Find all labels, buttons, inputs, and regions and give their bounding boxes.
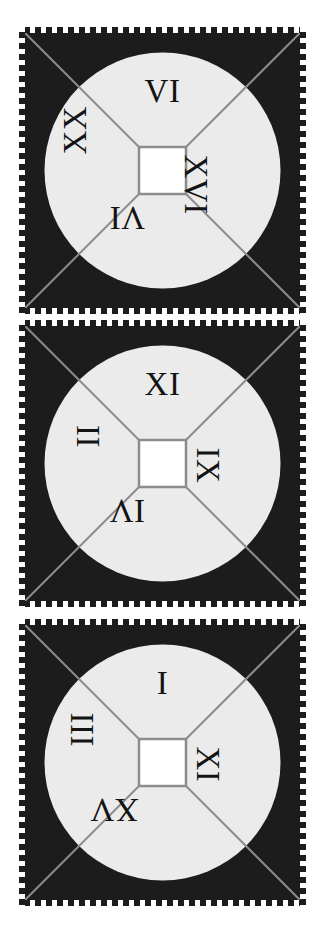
numeral-top: VI	[145, 75, 181, 108]
dial-panel: VI XVI VI XX	[19, 27, 306, 314]
border-dash-left	[19, 619, 25, 906]
border-dash-left	[19, 27, 25, 314]
border-dash-bottom	[19, 308, 306, 314]
dial-hub	[139, 440, 186, 487]
numeral-bottom: VI	[109, 201, 145, 234]
numeral-left: XX	[59, 105, 92, 154]
dial-panel: I XI XV III	[19, 619, 306, 906]
numeral-right: XI	[191, 746, 224, 782]
dial-face	[19, 320, 306, 607]
border-dash-top	[19, 619, 306, 625]
border-dash-top	[19, 27, 306, 33]
border-dash-right	[300, 619, 306, 906]
border-dash-bottom	[19, 900, 306, 906]
panel-stack: VI XVI VI XX XI IX I	[0, 0, 324, 933]
border-dash-left	[19, 320, 25, 607]
border-dash-top	[19, 320, 306, 326]
border-dash-bottom	[19, 601, 306, 607]
border-dash-right	[300, 27, 306, 314]
numeral-right: XVI	[179, 154, 212, 214]
numeral-top: I	[157, 667, 169, 700]
dial-face	[19, 27, 306, 314]
dial-hub	[139, 739, 186, 786]
numeral-left: III	[66, 712, 99, 746]
border-dash-right	[300, 320, 306, 607]
dial-face	[19, 619, 306, 906]
numeral-left: II	[72, 424, 105, 447]
numeral-bottom: XV	[89, 793, 138, 826]
dial-panel: XI IX IV II	[19, 320, 306, 607]
numeral-top: XI	[145, 368, 181, 401]
numeral-bottom: IV	[109, 494, 145, 527]
numeral-right: IX	[191, 447, 224, 483]
